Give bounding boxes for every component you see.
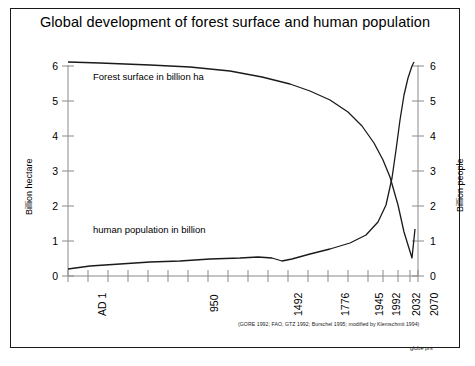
y-tick-right-1: 1 <box>430 235 436 247</box>
x-tick-2032: 2032 <box>410 293 422 316</box>
y-tick-left-3: 3 <box>40 165 58 177</box>
axis-lines <box>68 65 418 276</box>
y-tick-left-0: 0 <box>40 270 58 282</box>
y-tick-right-2: 2 <box>430 200 436 212</box>
chart-figure: Global development of forest surface and… <box>0 0 475 366</box>
source-citation: (GORE 1992; FAO, GTZ 1992; Burschel 1995… <box>238 321 419 327</box>
x-tick-1945: 1945 <box>373 293 385 316</box>
annotation-forest-surface: Forest surface in billion ha <box>93 71 204 82</box>
y-tick-left-2: 2 <box>40 200 58 212</box>
annotation-human-population: human population in billion <box>93 224 206 235</box>
y-tick-right-6: 6 <box>430 60 436 72</box>
x-tick-2070: 2070 <box>428 293 440 316</box>
y-tick-left-4: 4 <box>40 130 58 142</box>
y-tick-right-0: 0 <box>430 270 436 282</box>
plot-canvas <box>0 0 475 366</box>
y-tick-right-5: 5 <box>430 95 436 107</box>
y-tick-right-4: 4 <box>430 130 436 142</box>
x-tick-1492: 1492 <box>292 293 304 316</box>
y-axis-right-title: Billion people <box>455 158 465 212</box>
x-tick-1776: 1776 <box>339 293 351 316</box>
y-tick-left-6: 6 <box>40 60 58 72</box>
series-line-human-population <box>68 62 414 269</box>
y-tick-right-3: 3 <box>430 165 436 177</box>
y-tick-left-5: 5 <box>40 95 58 107</box>
x-tick-ad-1: AD 1 <box>96 293 108 316</box>
y-axis-left-title: Billion hectare <box>24 158 34 215</box>
x-tick-1992: 1992 <box>390 293 402 316</box>
watermark-label: globe prs <box>410 345 433 351</box>
y-tick-left-1: 1 <box>40 235 58 247</box>
x-tick-950: 950 <box>208 294 220 312</box>
